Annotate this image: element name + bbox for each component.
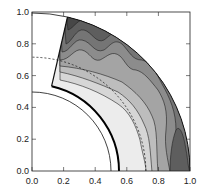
x-tick-label: 0.4 (89, 176, 102, 186)
contour-fill (32, 12, 192, 172)
x-tick-label: 0.0 (26, 176, 39, 186)
outer-circle (32, 13, 68, 17)
contour-chart: 0.0 0.2 0.4 0.6 0.8 1.0 0.0 0.2 0.4 0.6 … (0, 0, 209, 194)
x-tick-label: 1.0 (184, 176, 197, 186)
y-tick-label: 0.0 (16, 166, 29, 176)
y-tick-label: 0.4 (16, 102, 29, 112)
x-axis-labels: 0.0 0.2 0.4 0.6 0.8 1.0 (26, 176, 197, 186)
y-axis-labels: 0.0 0.2 0.4 0.6 0.8 1.0 (16, 7, 29, 176)
x-tick-label: 0.2 (57, 176, 70, 186)
y-tick-label: 0.2 (16, 134, 29, 144)
plot-area (32, 12, 192, 172)
y-tick-label: 1.0 (16, 7, 29, 17)
y-tick-label: 0.8 (16, 39, 29, 49)
x-tick-label: 0.6 (121, 176, 134, 186)
x-tick-label: 0.8 (152, 176, 165, 186)
y-tick-label: 0.6 (16, 71, 29, 81)
